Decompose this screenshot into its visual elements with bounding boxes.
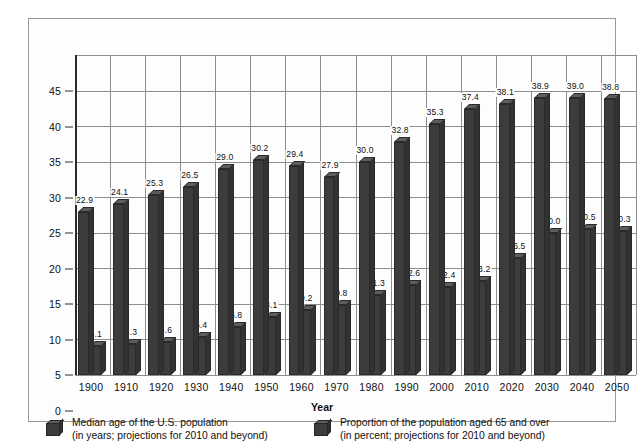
bar-side-face [264,155,269,375]
bar-value-label: 38.8 [601,83,620,92]
x-tick-label: 1900 [79,381,104,393]
gridline-vertical [110,55,111,375]
bar-median-age: 26.5 [183,187,194,375]
bar-value-label: 29.4 [285,150,304,159]
legend-label-line1: Proportion of the population aged 65 and… [340,417,550,428]
gridline-vertical [461,55,462,375]
bar-median-age: 38.9 [534,98,545,375]
bar-side-face [615,94,620,375]
gridline-vertical [601,55,602,375]
x-tick-label: 1910 [114,381,139,393]
y-tick-label: 5 [55,369,61,381]
bar-front-face [604,99,615,375]
bar-front-face [113,204,124,375]
bar-median-age: 39.0 [569,98,580,375]
bar-median-age: 30.2 [253,160,264,375]
bar-side-face [276,312,281,375]
plot-inner: 4.122.94.324.14.625.35.426.56.829.08.130… [75,55,636,375]
bar-value-label: 30.2 [250,144,269,153]
bar-median-age: 22.9 [78,212,89,375]
y-tick-mark [65,304,73,305]
bar-side-face [591,224,596,375]
bar-median-age: 38.1 [499,104,510,375]
legend-swatch-icon [314,420,331,436]
bar-value-label: 38.9 [531,82,550,91]
y-axis: 051015202530354045 [29,55,71,375]
bar-side-face [229,164,234,375]
gridline-vertical [566,55,567,375]
legend-label-median-age: Median age of the U.S. population (in ye… [72,417,268,442]
bar-side-face [311,305,316,375]
x-tick-label: 1990 [394,381,419,393]
bar-side-face [475,104,480,375]
bar-value-label: 38.1 [496,88,515,97]
x-tick-label: 1930 [184,381,209,393]
bar-value-label: 37.4 [461,93,480,102]
x-tick-label: 2030 [535,381,560,393]
x-axis: 1900191019201930194019501960197019801990… [75,381,636,399]
x-tick-label: 2010 [465,381,490,393]
legend-label-proportion-65: Proportion of the population aged 65 and… [340,417,550,442]
bar-front-face [394,142,405,375]
bar-side-face [370,157,375,375]
bar-median-age: 30.0 [359,162,370,375]
bar-value-label: 35.3 [426,108,445,117]
bar-side-face [171,337,176,375]
bar-median-age: 29.0 [218,169,229,375]
bar-front-face [183,187,194,375]
legend-label-line2: (in years; projections for 2010 and beyo… [72,430,268,441]
bar-side-face [521,253,526,375]
bar-side-face [299,161,304,375]
x-tick-label: 2040 [570,381,595,393]
bar-side-face [627,226,632,375]
bar-front-face [289,166,300,375]
bar-side-face [206,332,211,375]
bar-side-face [556,228,561,375]
x-tick-label: 2020 [500,381,525,393]
bar-side-face [381,290,386,375]
gridline-vertical [496,55,497,375]
bar-median-age: 25.3 [148,195,159,375]
chart-frame: 051015202530354045 4.122.94.324.14.625.3… [28,18,616,422]
bar-side-face [580,93,585,375]
gridline-vertical [180,55,181,375]
y-tick-label: 45 [49,85,61,97]
y-tick-label: 20 [49,263,61,275]
legend-item-proportion-65: Proportion of the population aged 65 and… [314,417,550,442]
y-tick-mark [65,162,73,163]
bar-side-face [101,341,106,375]
y-tick-mark [65,197,73,198]
gridline-vertical [285,55,286,375]
bar-side-face [440,119,445,375]
bar-front-face [218,169,229,375]
y-tick-label: 15 [49,298,61,310]
y-tick-mark [65,375,73,376]
bar-front-face [359,162,370,375]
bar-median-age: 32.8 [394,142,405,375]
gridline-horizontal [75,375,636,376]
gridline-vertical [531,55,532,375]
value-axis-line [75,55,77,375]
gridline-vertical [636,55,637,375]
bar-side-face [510,99,515,375]
gridline-vertical [426,55,427,375]
y-tick-mark [65,126,73,127]
bar-value-label: 24.1 [110,188,129,197]
bar-median-age: 38.8 [604,99,615,375]
bar-side-face [136,339,141,375]
x-tick-label: 1950 [254,381,279,393]
y-tick-mark [65,268,73,269]
bar-front-face [324,177,335,375]
bar-front-face [429,124,440,375]
bar-value-label: 22.9 [75,196,94,205]
bar-front-face [499,104,510,375]
bar-side-face [545,93,550,375]
bar-front-face [569,98,580,375]
bar-value-label: 26.5 [180,171,199,180]
bar-side-face [89,207,94,375]
y-tick-mark [65,91,73,92]
gridline-vertical [320,55,321,375]
bar-side-face [405,137,410,375]
bar-median-age: 27.9 [324,177,335,375]
legend-label-line1: Median age of the U.S. population [72,417,228,428]
